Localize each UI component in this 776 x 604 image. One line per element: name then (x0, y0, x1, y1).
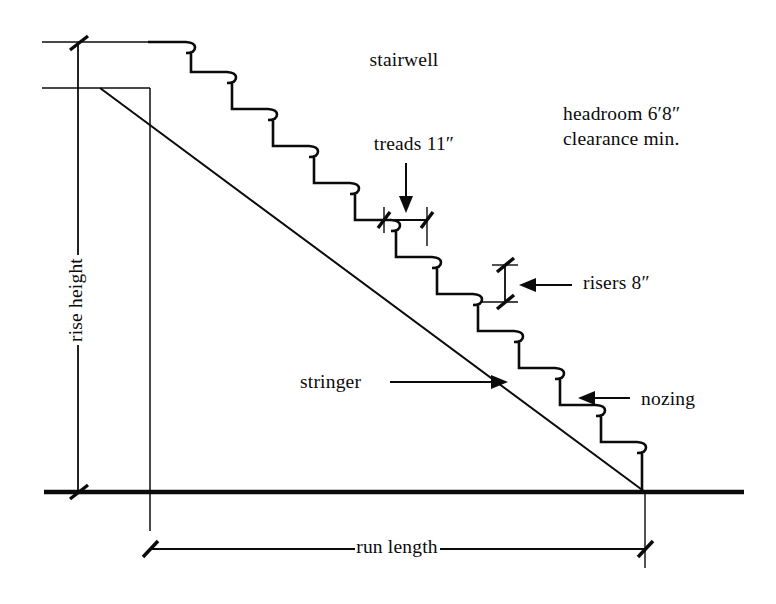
stairwell-label: stairwell (370, 49, 439, 70)
risers-label: risers 8″ (583, 272, 650, 293)
headroom-label-line2: clearance min. (563, 128, 679, 149)
headroom-label-line1: headroom 6′8″ (563, 103, 680, 124)
run-length-label: run length (356, 536, 438, 557)
treads-label: treads 11″ (374, 133, 454, 154)
stringer-arrow-head (491, 375, 508, 389)
diagram-canvas: rise height run length stairwell headroo… (0, 0, 776, 604)
treads-arrow-head (399, 196, 413, 213)
nozing-annotation: nozing (578, 388, 695, 409)
rise-tick-top (70, 36, 88, 50)
stringer-annotation: stringer (300, 371, 508, 392)
risers-annotation: risers 8″ (480, 258, 650, 309)
run-length-dimension: run length (143, 492, 653, 568)
stair-diagram-svg: rise height run length stairwell headroo… (0, 0, 776, 604)
treads-annotation: treads 11″ (374, 133, 454, 246)
nozing-label: nozing (641, 388, 695, 409)
nozing-arrow-head (578, 391, 595, 405)
headroom-label-group: headroom 6′8″ clearance min. (563, 103, 680, 149)
rise-height-dimension: rise height (42, 36, 150, 499)
stringer-label: stringer (300, 371, 361, 392)
rise-height-label: rise height (65, 258, 86, 342)
risers-arrow-head (519, 278, 536, 292)
